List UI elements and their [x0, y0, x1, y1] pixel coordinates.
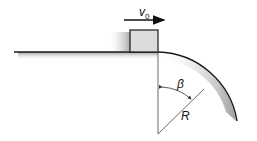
radius-label: R	[181, 110, 190, 122]
ground-shadow	[18, 52, 158, 60]
velocity-label: v0	[139, 6, 149, 21]
diagram-canvas: v0 β R	[0, 0, 257, 141]
diagram-svg	[0, 0, 257, 141]
angle-label: β	[177, 78, 184, 90]
curved-surface	[158, 52, 237, 121]
velocity-subscript: 0	[145, 12, 149, 21]
block	[130, 30, 158, 52]
block-motion-blur	[108, 32, 130, 51]
